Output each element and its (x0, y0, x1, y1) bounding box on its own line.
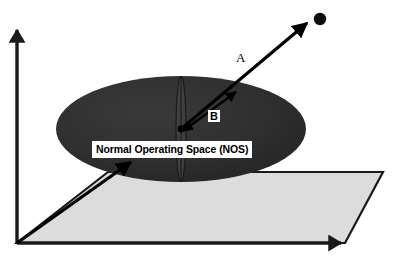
diagram-canvas: Normal Operating Space (NOS) B A (0, 0, 399, 257)
vector-b-label: B (208, 110, 220, 122)
diagram-graphics (0, 0, 399, 257)
vector-a-label: A (236, 51, 245, 65)
vector-origin-dot (178, 126, 185, 133)
deviation-endpoint-dot (314, 13, 326, 25)
ground-plane (17, 172, 383, 243)
normal-operating-space-label: Normal Operating Space (NOS) (92, 141, 252, 158)
